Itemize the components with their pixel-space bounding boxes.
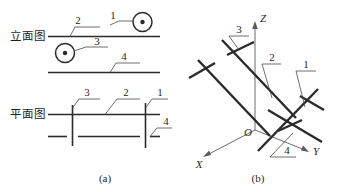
- part-number-3d-2: 2: [269, 51, 275, 63]
- view-label-plan: 平面图: [10, 107, 46, 121]
- axis-label-y: Y: [313, 145, 321, 157]
- axis-label-origin: O: [244, 126, 252, 138]
- dot-circle-upper-center: [140, 20, 144, 24]
- part-number-3d-1: 1: [303, 58, 309, 70]
- plan-view-group: 3 2 1 4 平面图: [10, 86, 172, 148]
- member-2-bar: [198, 60, 270, 136]
- axis-label-x: X: [195, 158, 204, 170]
- part-number-elevation-2: 2: [75, 14, 81, 26]
- panel-b-group: Z X Y O: [189, 12, 324, 185]
- axis-z-arrowhead: [252, 21, 258, 29]
- leader-elevation-1: [110, 21, 133, 25]
- part-number-plan-2: 2: [123, 86, 129, 98]
- dot-circle-lower-marker: [56, 44, 75, 63]
- leader-plan-2: [105, 99, 140, 115]
- leader-elevation-4: [110, 63, 140, 73]
- elevation-view-group: 2 1 3 4: [10, 9, 160, 73]
- part-number-plan-4: 4: [163, 115, 169, 127]
- axis-y-arrowhead: [301, 146, 309, 153]
- view-label-elevation: 立面图: [10, 29, 46, 43]
- part-number-plan-1: 1: [157, 86, 163, 98]
- axis-label-z: Z: [260, 12, 267, 24]
- sub-caption-b: (b): [252, 172, 265, 185]
- part-number-plan-3: 3: [84, 86, 90, 98]
- leader-plan-3: [73, 99, 101, 108]
- part-number-elevation-1: 1: [110, 9, 116, 21]
- member-4-bar: [268, 110, 322, 142]
- leader-plan-1: [146, 99, 169, 108]
- axis-z-group: Z: [252, 12, 267, 130]
- dot-circle-upper-marker: [133, 13, 152, 32]
- leader-elevation-3: [74, 47, 108, 51]
- part-number-3d-3: 3: [236, 23, 242, 35]
- leader-plan-4: [150, 128, 172, 137]
- engineering-drawing-figure: 2 1 3 4: [0, 0, 337, 192]
- member-1-bar: [258, 89, 318, 151]
- panel-a-group: 2 1 3 4: [10, 9, 172, 185]
- dot-circle-lower-center: [63, 51, 67, 55]
- sub-caption-a: (a): [99, 172, 112, 185]
- part-number-3d-4: 4: [284, 144, 290, 156]
- part-number-elevation-4: 4: [121, 50, 127, 62]
- part-number-elevation-3: 3: [94, 35, 100, 47]
- axis-x-arrowhead: [203, 151, 211, 158]
